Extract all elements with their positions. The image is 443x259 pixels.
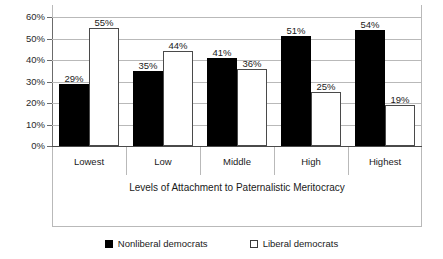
bar-pair: 35%44% [126,17,200,146]
bar-value-label: 44% [168,40,187,51]
bar-pair: 54%19% [348,17,422,146]
y-axis-tick-label: 60% [26,12,45,22]
bar[interactable]: 41% [207,58,237,146]
bar-chart: 0%10%20%30%40%50%60% 29%55%35%44%41%36%5… [0,0,443,259]
bar-value-label: 29% [64,73,83,84]
legend-label: Liberal democrats [263,238,339,249]
y-axis-tick-label: 20% [26,98,45,108]
y-axis-tick-label: 30% [26,77,45,87]
y-axis-tick-label: 10% [26,120,45,130]
y-axis-tick-label: 40% [26,55,45,65]
x-axis-category-label: Middle [200,147,274,175]
legend-label: Nonliberal democrats [118,238,208,249]
bar-value-label: 51% [286,25,305,36]
plot-area: 29%55%35%44%41%36%51%25%54%19% [52,17,422,146]
bar-groups: 29%55%35%44%41%36%51%25%54%19% [52,17,422,146]
legend-swatch-icon [105,240,113,248]
x-axis-category-label: Low [126,147,200,175]
bar[interactable]: 44% [163,51,193,146]
bar-group: 41%36% [200,17,274,146]
bar-value-label: 54% [360,19,379,30]
x-axis-title: Levels of Attachment to Paternalistic Me… [52,182,422,193]
bar[interactable]: 19% [385,105,415,146]
bar-value-label: 55% [94,17,113,28]
bar-group: 29%55% [52,17,126,146]
bar[interactable]: 54% [355,30,385,146]
x-axis-category-label: Highest [348,147,422,175]
chart-legend: Nonliberal democratsLiberal democrats [0,238,443,249]
legend-item[interactable]: Liberal democrats [250,238,339,249]
bar[interactable]: 55% [89,28,119,146]
legend-item[interactable]: Nonliberal democrats [105,238,208,249]
bar-value-label: 41% [212,47,231,58]
bar[interactable]: 25% [311,92,341,146]
bar-pair: 41%36% [200,17,274,146]
legend-swatch-icon [250,240,258,248]
x-axis-category-label: Lowest [52,147,126,175]
bar-group: 35%44% [126,17,200,146]
bar-value-label: 25% [316,81,335,92]
y-axis-tick-labels: 0%10%20%30%40%50%60% [0,0,49,163]
bar-pair: 51%25% [274,17,348,146]
bar-group: 51%25% [274,17,348,146]
bar[interactable]: 36% [237,69,267,146]
bar-value-label: 35% [138,60,157,71]
x-axis-category-labels: LowestLowMiddleHighHighest [52,147,422,175]
y-axis-tick-label: 0% [31,141,45,151]
y-axis-tick-label: 50% [26,34,45,44]
bar[interactable]: 51% [281,36,311,146]
bar[interactable]: 29% [59,84,89,146]
bar-value-label: 19% [390,94,409,105]
bar-pair: 29%55% [52,17,126,146]
bar-group: 54%19% [348,17,422,146]
x-axis-category-label: High [274,147,348,175]
bar[interactable]: 35% [133,71,163,146]
bar-value-label: 36% [242,58,261,69]
